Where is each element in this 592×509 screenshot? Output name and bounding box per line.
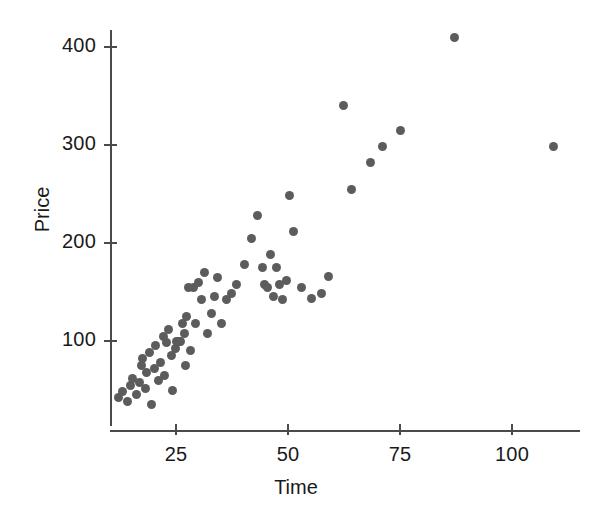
data-point	[289, 227, 298, 236]
data-point	[162, 338, 171, 347]
y-axis-line	[110, 30, 112, 426]
data-point	[118, 387, 127, 396]
x-tick-mark	[511, 424, 513, 435]
y-axis-title: Price	[31, 178, 54, 242]
x-tick-mark	[399, 424, 401, 435]
data-point	[123, 397, 132, 406]
data-point	[207, 309, 216, 318]
data-point	[450, 33, 459, 42]
x-tick-mark	[175, 424, 177, 435]
data-point	[227, 289, 236, 298]
x-axis-line	[110, 430, 580, 432]
data-point	[339, 101, 348, 110]
y-tick-mark	[104, 46, 117, 48]
x-tick-label: 100	[477, 443, 547, 466]
data-point	[366, 158, 375, 167]
data-point	[258, 263, 267, 272]
data-point	[194, 278, 203, 287]
data-point	[269, 292, 278, 301]
data-point	[317, 289, 326, 298]
data-point	[197, 295, 206, 304]
y-tick-mark	[104, 144, 117, 146]
data-point	[210, 292, 219, 301]
plot-area: 100200300400 255075100	[0, 0, 592, 509]
data-point	[266, 250, 275, 259]
data-point	[164, 325, 173, 334]
data-point	[240, 260, 249, 269]
data-point	[285, 191, 294, 200]
data-point	[203, 329, 212, 338]
data-point	[147, 400, 156, 409]
data-point	[156, 358, 165, 367]
data-point	[232, 280, 241, 289]
scatter-plot-figure: 100200300400 255075100 Price Time	[0, 0, 592, 509]
data-point	[263, 283, 272, 292]
x-tick-mark	[287, 424, 289, 435]
data-point	[278, 295, 287, 304]
data-point	[132, 390, 141, 399]
data-point	[272, 263, 281, 272]
data-point	[324, 272, 333, 281]
data-point	[396, 126, 405, 135]
data-point	[141, 384, 150, 393]
y-tick-label: 400	[30, 34, 96, 57]
x-tick-label: 50	[253, 443, 323, 466]
y-tick-mark	[104, 340, 117, 342]
x-tick-label: 75	[365, 443, 435, 466]
data-point	[182, 312, 191, 321]
data-point	[176, 337, 185, 346]
data-point	[213, 273, 222, 282]
data-point	[191, 319, 200, 328]
x-axis-title: Time	[0, 476, 592, 499]
data-point	[160, 371, 169, 380]
data-point	[200, 268, 209, 277]
data-point	[307, 294, 316, 303]
x-tick-label: 25	[141, 443, 211, 466]
data-point	[151, 341, 160, 350]
data-point	[217, 319, 226, 328]
data-point	[253, 211, 262, 220]
data-point	[186, 346, 195, 355]
data-point	[347, 185, 356, 194]
data-point	[297, 283, 306, 292]
y-tick-mark	[104, 242, 117, 244]
data-point	[168, 386, 177, 395]
data-point	[181, 361, 190, 370]
data-point	[549, 142, 558, 151]
data-point	[171, 344, 180, 353]
data-point	[247, 234, 256, 243]
data-point	[378, 142, 387, 151]
data-point	[282, 276, 291, 285]
data-point	[180, 329, 189, 338]
y-tick-label: 300	[30, 132, 96, 155]
y-tick-label: 100	[30, 328, 96, 351]
